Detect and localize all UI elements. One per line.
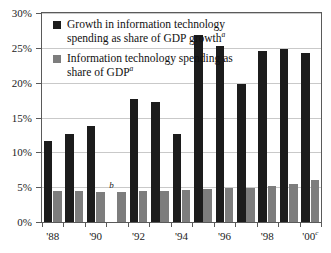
legend-item-label: Growth in information technology spendin… [67,18,238,45]
x-axis-label: '90 [76,231,116,242]
x-axis-tick [171,222,172,227]
bar [258,51,267,222]
x-axis-tick [278,222,279,227]
x-axis-tick [42,222,43,227]
bar [203,189,212,222]
bar [53,191,62,222]
x-axis-tick [63,222,64,227]
x-axis-label: '96 [204,231,244,242]
bar [117,192,126,222]
gray-swatch-icon [53,55,61,63]
y-axis-label: 30% [12,8,32,19]
bar [280,49,289,222]
x-axis-label: '00c [290,231,330,242]
x-axis-tick [149,222,150,227]
x-axis-tick [85,222,86,227]
bar [139,191,148,222]
bar [151,102,160,222]
legend-item-spending-share: Information technology spending as share… [53,52,238,79]
y-axis-label: 25% [12,43,32,54]
y-axis-label: 20% [12,78,32,89]
x-axis-tick [214,222,215,227]
bar [289,184,298,222]
y-axis-label: 15% [12,113,32,124]
bar [301,53,310,222]
bar [246,188,255,222]
x-axis-tick [257,222,258,227]
legend-item-label: Information technology spending as share… [67,52,238,79]
missing-data-footnote-marker: b [109,181,114,190]
bar [96,192,105,222]
chart-container: 0%5%10%15%20%25%30% b '88'90'92'94'96'98… [0,0,331,253]
bar [237,84,246,222]
bar [65,134,74,222]
bar [130,99,139,222]
bar [44,141,53,223]
x-axis-tick [300,222,301,227]
bar [182,190,191,222]
x-axis-tick [128,222,129,227]
dark-swatch-icon [53,21,61,29]
x-axis-tick [235,222,236,227]
x-axis-label: '94 [162,231,202,242]
x-axis-label: '92 [119,231,159,242]
bar [75,191,84,222]
y-axis-label: 5% [17,182,32,193]
legend-item-growth-share: Growth in information technology spendin… [53,18,238,45]
bar [87,126,96,222]
x-axis-label: '98 [247,231,287,242]
chart-legend: Growth in information technology spendin… [53,18,238,86]
y-axis-label: 0% [17,217,32,228]
bar [173,134,182,222]
x-axis-label: '88 [33,231,73,242]
bar [225,188,234,222]
bar [160,191,169,222]
x-axis-tick [192,222,193,227]
gridline [42,13,321,14]
bar [311,180,320,222]
x-axis-tick [106,222,107,227]
y-axis-label: 10% [12,147,32,158]
bar [268,186,277,222]
x-axis-tick [321,222,322,227]
